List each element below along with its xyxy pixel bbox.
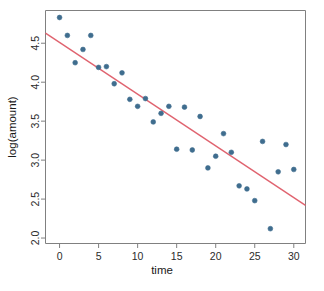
data-point — [190, 148, 195, 153]
x-tick-label: 30 — [288, 250, 300, 262]
data-point — [252, 198, 257, 203]
x-tick-label: 15 — [171, 250, 183, 262]
data-point — [229, 150, 234, 155]
data-point — [143, 96, 148, 101]
y-tick-label: 2.5 — [29, 192, 41, 207]
data-point — [174, 147, 179, 152]
figure-background — [0, 0, 324, 291]
data-point — [245, 187, 250, 192]
data-point — [206, 166, 211, 171]
x-tick-label: 20 — [210, 250, 222, 262]
data-point — [159, 111, 164, 116]
data-point — [65, 33, 70, 38]
data-point — [182, 105, 187, 110]
data-point — [276, 169, 281, 174]
data-point — [88, 33, 93, 38]
data-point — [127, 97, 132, 102]
data-point — [112, 81, 117, 86]
data-point — [151, 120, 156, 125]
y-tick-label: 4.0 — [29, 75, 41, 90]
data-point — [291, 167, 296, 172]
data-point — [104, 64, 109, 69]
data-point — [237, 183, 242, 188]
data-point — [81, 47, 86, 52]
data-point — [268, 226, 273, 231]
data-point — [120, 70, 125, 75]
data-point — [57, 15, 62, 20]
data-point — [221, 131, 226, 136]
y-tick-label: 2.0 — [29, 231, 41, 246]
data-point — [198, 114, 203, 119]
data-point — [260, 139, 265, 144]
data-point — [166, 104, 171, 109]
data-point — [213, 154, 218, 159]
y-tick-label: 3.5 — [29, 114, 41, 129]
x-axis-title: time — [151, 264, 173, 276]
scatter-plot-figure: 051015202530 2.02.53.03.54.04.5 time log… — [0, 0, 324, 291]
data-point — [135, 104, 140, 109]
x-tick-label: 5 — [96, 250, 102, 262]
y-tick-label: 3.0 — [29, 153, 41, 168]
y-tick-label: 4.5 — [29, 36, 41, 51]
y-axis-title: log(amount) — [6, 96, 18, 158]
data-point — [96, 65, 101, 70]
data-point — [284, 142, 289, 147]
data-point — [73, 60, 78, 65]
plot-canvas: 051015202530 2.02.53.03.54.04.5 time log… — [0, 0, 324, 291]
x-tick-label: 25 — [249, 250, 261, 262]
x-tick-label: 0 — [57, 250, 63, 262]
x-tick-label: 10 — [132, 250, 144, 262]
